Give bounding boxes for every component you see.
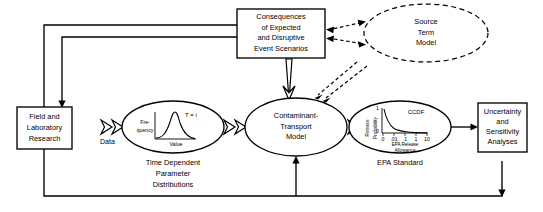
arrowhead-right-uncertainty (471, 123, 479, 130)
ccdf-plot-title: CCDF (408, 109, 425, 115)
connector-epa-to-uncertainty (451, 123, 478, 130)
distribution-ylabel-line-2: quency (137, 127, 154, 133)
epa-standard-caption: EPA Standard (377, 158, 423, 167)
field-lab-line-2: Laboratory (27, 123, 63, 132)
contaminant-line-2: Transport (280, 122, 311, 131)
diagram-canvas: Consequences of Expected and Disruptive … (0, 0, 543, 212)
consequences-line-4: Event Scenarios (254, 44, 308, 53)
source-term-line-3: Model (416, 38, 436, 47)
consequences-line-2: of Expected (261, 23, 300, 32)
uncertainty-line-4: Analyses (488, 137, 518, 146)
time-dependent-parameter-distributions-node[interactable]: Fre- quency Value T = i Time Dependent P… (122, 101, 224, 189)
arrowhead-up-contaminant (292, 156, 299, 164)
arrowhead-dashed-to-consequences-upper (326, 27, 334, 34)
epa-standard-ccdf-node[interactable]: Release Probability 1 0 0 .01 .1 1 10 CC… (349, 101, 451, 167)
uncertainty-line-1: Uncertainty (484, 107, 522, 116)
contaminant-line-1: Contaminant- (274, 111, 319, 120)
consequences-line-3: and Disruptive (257, 33, 304, 42)
connector-consequences-to-contaminant (283, 59, 295, 100)
distribution-caption-line-2: Parameter (156, 169, 191, 178)
connector-distributions-to-contaminant (224, 120, 246, 134)
contaminant-transport-model-node[interactable]: Contaminant- Transport Model (245, 98, 347, 156)
ccdf-xtick-0: 0 (382, 136, 385, 142)
arrowhead-dashed-to-source-term-lower (358, 41, 366, 47)
source-term-line-2: Term (418, 28, 434, 37)
source-term-model-node[interactable]: Source Term Model (364, 4, 488, 62)
data-edge-label: Data (100, 138, 115, 145)
connector-dashed-consequences-source-term (326, 20, 366, 48)
distribution-caption-line-3: Distributions (153, 180, 194, 189)
flow-diagram: Consequences of Expected and Disruptive … (0, 0, 543, 212)
arrowhead-dashed-to-consequences-lower (326, 35, 334, 42)
distribution-caption-line-1: Time Dependent (146, 158, 200, 167)
ccdf-ylabel-line-1: Release (365, 119, 370, 136)
consequences-line-1: Consequences (256, 12, 306, 21)
ccdf-xlabel-line-1: EPA Release (392, 142, 419, 147)
ccdf-ytick-0: 0 (376, 128, 379, 134)
field-and-laboratory-research-box[interactable]: Field and Laboratory Research (17, 107, 72, 149)
contaminant-line-3: Model (286, 132, 306, 141)
consequences-box[interactable]: Consequences of Expected and Disruptive … (237, 9, 325, 58)
uncertainty-line-3: Sensitivity (486, 127, 520, 136)
distribution-ylabel-line-1: Fre- (140, 119, 150, 125)
field-lab-line-1: Field and (29, 112, 59, 121)
ccdf-ytick-1: 1 (376, 105, 379, 111)
ccdf-xlabel-line-2: Allowance (395, 148, 416, 153)
connector-dashed-source-term-contaminant (315, 62, 368, 103)
ccdf-xtick-4: 10 (424, 136, 430, 142)
connector-field-to-distributions (101, 120, 123, 134)
arrowhead-dashed-to-source-term-upper (358, 20, 366, 26)
uncertainty-and-sensitivity-analyses-box[interactable]: Uncertainty and Sensitivity Analyses (478, 103, 527, 152)
distribution-xlabel: Value (170, 141, 183, 147)
connector-bottom-to-contaminant (292, 156, 299, 196)
distribution-annotation: T = i (185, 112, 197, 118)
source-term-line-1: Source (414, 17, 437, 26)
field-lab-line-3: Research (29, 134, 61, 143)
uncertainty-line-2: and (496, 117, 508, 126)
